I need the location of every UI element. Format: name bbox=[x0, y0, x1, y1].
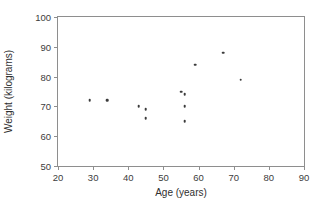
y-axis-tick-label: 100 bbox=[35, 12, 51, 23]
y-axis-tick bbox=[54, 47, 58, 48]
data-point bbox=[183, 93, 186, 96]
data-point bbox=[145, 117, 148, 120]
data-point bbox=[194, 63, 197, 66]
y-axis-tick-label: 70 bbox=[40, 101, 51, 112]
data-point bbox=[88, 99, 91, 102]
x-axis-tick-label: 80 bbox=[264, 172, 275, 183]
x-axis-tick bbox=[128, 166, 129, 170]
data-point bbox=[106, 99, 109, 102]
y-axis-label: Weight (kilograms) bbox=[2, 16, 16, 167]
y-axis-tick bbox=[54, 136, 58, 137]
x-axis-tick-label: 30 bbox=[88, 172, 99, 183]
x-axis-tick bbox=[304, 166, 305, 170]
x-axis-tick bbox=[199, 166, 200, 170]
data-point bbox=[145, 108, 148, 111]
x-axis-tick bbox=[234, 166, 235, 170]
y-axis-tick bbox=[54, 106, 58, 107]
x-axis-tick bbox=[269, 166, 270, 170]
y-axis-label-text: Weight (kilograms) bbox=[4, 50, 15, 133]
x-axis-label: Age (years) bbox=[57, 187, 305, 198]
scatter-plot-figure: Weight (kilograms) 506070809010020304050… bbox=[0, 0, 327, 211]
y-axis-tick-label: 60 bbox=[40, 131, 51, 142]
data-point bbox=[183, 105, 186, 108]
data-point bbox=[180, 90, 183, 93]
y-axis-tick bbox=[54, 17, 58, 18]
x-axis-tick-label: 20 bbox=[53, 172, 64, 183]
y-axis-tick-label: 80 bbox=[40, 71, 51, 82]
data-point bbox=[222, 51, 225, 54]
data-point bbox=[183, 120, 186, 123]
y-axis-tick-label: 50 bbox=[40, 161, 51, 172]
x-axis-tick bbox=[93, 166, 94, 170]
x-axis-tick bbox=[58, 166, 59, 170]
x-axis-tick-label: 50 bbox=[158, 172, 169, 183]
x-axis-tick-label: 90 bbox=[299, 172, 310, 183]
data-point bbox=[239, 78, 242, 81]
plot-area: 50607080901002030405060708090 bbox=[57, 16, 305, 167]
y-axis-tick-label: 90 bbox=[40, 41, 51, 52]
x-axis-tick-label: 40 bbox=[123, 172, 134, 183]
data-point bbox=[138, 105, 141, 108]
x-axis-tick-label: 60 bbox=[193, 172, 204, 183]
x-axis-tick bbox=[163, 166, 164, 170]
x-axis-label-text: Age (years) bbox=[155, 187, 207, 198]
x-axis-tick-label: 70 bbox=[228, 172, 239, 183]
y-axis-tick bbox=[54, 77, 58, 78]
